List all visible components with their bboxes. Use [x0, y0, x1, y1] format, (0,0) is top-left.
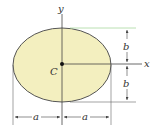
- dimension-a-right-label: a: [82, 111, 88, 122]
- dimension-a-left-label: a: [33, 111, 39, 122]
- centroid-point: [60, 62, 64, 66]
- ellipse-diagram: y x C b b a a: [0, 0, 156, 135]
- dimension-b-top-label: b: [123, 41, 129, 52]
- y-axis-label: y: [57, 3, 64, 14]
- centroid-label: C: [50, 66, 58, 77]
- dimension-b-bottom-label: b: [123, 78, 129, 89]
- x-axis-label: x: [144, 58, 150, 69]
